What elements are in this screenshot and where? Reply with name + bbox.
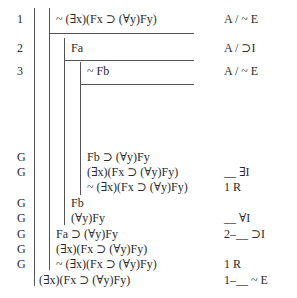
line-number: 3 xyxy=(17,64,29,78)
justification: 1 R xyxy=(224,257,241,271)
formula: (∃x)(Fx ⊃ (∀y)Fy) xyxy=(39,273,130,287)
formula: (∀y)Fy xyxy=(71,211,105,225)
scope-line-level1 xyxy=(49,8,50,270)
justification: A / ~ E xyxy=(224,12,258,26)
assumption-bar-2 xyxy=(64,60,194,61)
line-number: 1 xyxy=(17,12,29,26)
formula: Fb xyxy=(71,196,84,210)
line-number: G xyxy=(17,165,29,179)
line-number: G xyxy=(17,196,29,210)
justification: __ ∃I xyxy=(224,165,250,179)
justification: 1–__ ~ E xyxy=(224,273,268,287)
justification: A / ~ E xyxy=(224,64,258,78)
formula: ~ (∃x)(Fx ⊃ (∀y)Fy) xyxy=(56,257,157,271)
line-number: G xyxy=(17,211,29,225)
scope-line-main xyxy=(34,8,35,286)
assumption-bar-1 xyxy=(49,33,194,34)
formula: Fa xyxy=(71,41,83,55)
scope-line-level2 xyxy=(64,38,65,225)
line-number: G xyxy=(17,150,29,164)
justification: 1 R xyxy=(224,180,241,194)
formula: (∃x)(Fx ⊃ (∀y)Fy) xyxy=(87,165,178,179)
formula: Fa ⊃ (∀y)Fy xyxy=(56,227,118,241)
formula: ~ Fb xyxy=(87,64,109,78)
scope-line-level3 xyxy=(80,62,81,195)
line-number: G xyxy=(17,227,29,241)
line-number: G xyxy=(17,242,29,256)
line-number: G xyxy=(17,257,29,271)
justification: 2–__ ⊃I xyxy=(224,227,265,241)
justification: A / ⊃I xyxy=(224,41,255,55)
formula: Fb ⊃ (∀y)Fy xyxy=(87,150,150,164)
assumption-bar-3 xyxy=(80,84,194,85)
formula: ~ (∃x)(Fx ⊃ (∀y)Fy) xyxy=(87,180,188,194)
formula: ~ (∃x)(Fx ⊃ (∀y)Fy) xyxy=(56,12,157,26)
justification: __ ∀I xyxy=(224,211,250,225)
fitch-proof: 1 ~ (∃x)(Fx ⊃ (∀y)Fy) A / ~ E 2 Fa A / ⊃… xyxy=(0,0,297,298)
line-number: 2 xyxy=(17,41,29,55)
formula: (∃x)(Fx ⊃ (∀y)Fy) xyxy=(56,242,147,256)
